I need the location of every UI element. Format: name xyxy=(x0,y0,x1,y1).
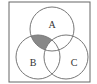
label-c: C xyxy=(71,57,78,68)
label-a: A xyxy=(48,19,56,30)
label-b: B xyxy=(30,57,37,68)
venn-diagram: A B C xyxy=(0,0,97,84)
